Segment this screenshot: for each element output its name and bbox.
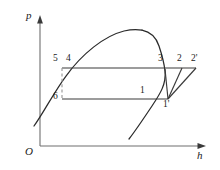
state-point-label-6: 6 (53, 92, 58, 102)
y-axis-label: p (26, 10, 32, 21)
saturated-liquid-curve (34, 30, 142, 126)
x-axis-label: h (197, 150, 203, 161)
state-point-label-2-prime: 2' (191, 54, 197, 64)
process-line-group (62, 68, 196, 99)
saturated-vapour-curve (129, 30, 165, 139)
pressure-enthalpy-cycle-diagram: p h O 1 1' 2 2' 3 4 5 6 (0, 0, 220, 170)
state-point-label-4: 4 (66, 54, 71, 64)
saturation-dome-group (34, 30, 165, 139)
compression-line-1p-2p (168, 68, 196, 99)
state-point-label-1: 1 (140, 86, 145, 96)
state-point-label-2: 2 (177, 54, 182, 64)
state-point-label-5: 5 (53, 54, 58, 64)
y-axis-arrowhead (37, 15, 43, 24)
state-point-label-1-prime: 1' (163, 100, 169, 110)
state-point-label-3: 3 (158, 54, 163, 64)
origin-label: O (25, 146, 33, 157)
compression-line-1p-3 (165, 69, 168, 99)
diagram-canvas (0, 0, 220, 170)
compression-line-1p-2 (168, 68, 182, 99)
